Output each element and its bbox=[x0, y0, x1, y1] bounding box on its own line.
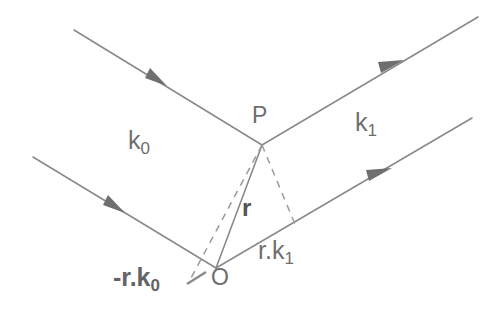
incident-ray-upper-arrowhead bbox=[145, 68, 167, 86]
position-vector-r-line bbox=[216, 145, 262, 268]
label-point-p: P bbox=[252, 104, 267, 127]
incident-extension-stub bbox=[187, 272, 206, 284]
perpendicular-to-scattered-dashed bbox=[262, 145, 297, 229]
diagram-canvas bbox=[0, 0, 494, 311]
label-point-o: O bbox=[211, 266, 229, 289]
incident-ray-upper bbox=[74, 30, 262, 145]
scattered-ray-upper-arrowhead bbox=[378, 60, 404, 73]
label-scattered-wavevector: k1 bbox=[355, 110, 377, 139]
label-path-difference-scattered: r.k1 bbox=[258, 238, 294, 267]
label-path-difference-incident: -r.k0 bbox=[113, 265, 161, 294]
label-incident-wavevector: k0 bbox=[128, 128, 150, 157]
scattered-ray-lower-arrowhead bbox=[366, 168, 392, 181]
scattering-geometry-figure: k0 k1 P O r -r.k0 r.k1 bbox=[0, 0, 494, 311]
incident-ray-lower-arrowhead bbox=[103, 195, 125, 213]
label-position-vector-r: r bbox=[242, 196, 251, 220]
